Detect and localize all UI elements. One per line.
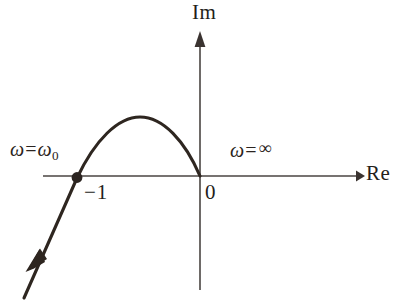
annotation-omega-zero: ω=ω0	[10, 139, 59, 162]
critical-point-marker	[72, 172, 83, 183]
arrow-up-icon	[195, 31, 206, 47]
tick-label-minus-one: −1	[84, 182, 108, 203]
annotation-omega-infinity: ω=∞	[230, 139, 272, 160]
imaginary-axis	[195, 31, 206, 290]
omega-value-subscript: 0	[52, 148, 59, 163]
real-axis-label: Re	[366, 163, 390, 184]
omega-value-symbol: ω	[37, 138, 51, 160]
equals-sign: =	[245, 139, 256, 161]
infinity-symbol: ∞	[258, 138, 271, 158]
imaginary-axis-label: Im	[192, 2, 216, 23]
tick-label-origin: 0	[205, 182, 216, 203]
omega-symbol: ω	[230, 139, 244, 161]
equals-sign: =	[25, 138, 36, 160]
nyquist-plot-figure: Im Re −1 0 ω=ω0 ω=∞	[0, 0, 412, 302]
arrow-right-icon	[356, 171, 365, 182]
omega-symbol: ω	[10, 138, 24, 160]
plot-canvas	[0, 0, 412, 302]
